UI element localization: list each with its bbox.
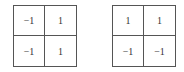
left-matrix: −1 1 −1 1: [13, 5, 77, 67]
matrix-cell: −1: [144, 36, 175, 66]
matrix-cell: −1: [14, 36, 45, 66]
matrix-cell: 1: [144, 6, 175, 36]
right-matrix: 1 1 −1 −1: [112, 5, 176, 67]
matrix-cell: −1: [14, 6, 45, 36]
matrix-cell: −1: [113, 36, 144, 66]
matrix-cell: 1: [45, 6, 76, 36]
matrix-cell: 1: [45, 36, 76, 66]
matrix-cell: 1: [113, 6, 144, 36]
